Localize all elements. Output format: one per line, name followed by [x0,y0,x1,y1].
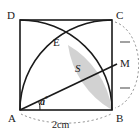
point-label-m: M [120,58,130,69]
side-length-label: 2cm [52,120,69,130]
geometry-figure: D C A B E M S a° 2cm [0,0,139,136]
region-label-s: S [75,63,81,74]
vertex-label-a: A [8,113,16,124]
angle-label: a° [40,96,48,107]
point-label-e: E [53,37,60,48]
vertex-label-c: C [116,10,123,21]
degree-symbol: ° [45,95,48,103]
vertex-label-d: D [7,10,15,21]
vertex-label-b: B [116,113,123,124]
